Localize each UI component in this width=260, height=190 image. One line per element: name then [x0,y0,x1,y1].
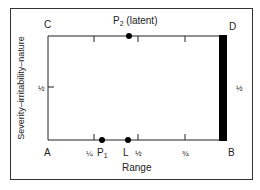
limit-bar-db [219,35,227,141]
left-half-label: ½ [38,84,45,94]
point-l [125,137,131,143]
point-p2-latent [126,33,132,39]
point-p1 [99,137,105,143]
point-label-p2: P2 (latent) [113,16,157,29]
corner-label-d: D [229,22,236,32]
corner-label-c: C [44,20,51,30]
point-label-p1: P1 [97,148,108,161]
x-tick-label-quarter: ¼ [86,149,93,159]
y-axis-label: Severity–irritability–nature [16,36,26,140]
x-tick-label-half: ½ [135,149,142,159]
corner-label-a: A [44,148,51,158]
right-bar-half-label: ½ [236,84,243,94]
p1-name: P [97,147,104,158]
corner-label-b: B [228,148,235,158]
point-label-l: L [123,148,129,158]
p1-subscript: 1 [104,152,108,159]
p2-name: P [113,15,120,26]
x-axis-label: Range [122,163,151,173]
x-tick-label-three-quarter: ¾ [182,149,189,159]
p2-suffix: (latent) [124,15,158,26]
